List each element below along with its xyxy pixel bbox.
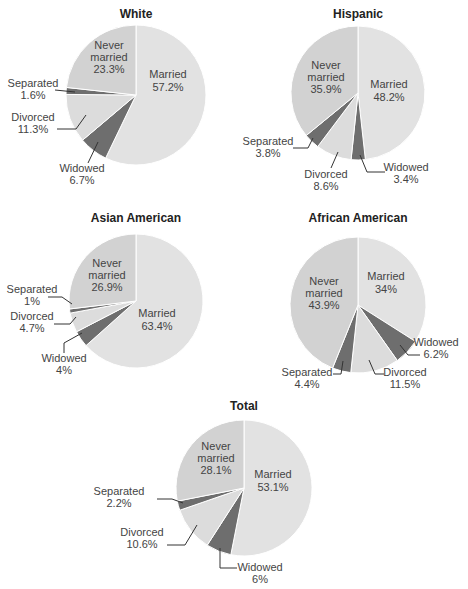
label-married: Married53.1% — [254, 468, 291, 493]
leader-separated — [48, 297, 72, 304]
chart-title-hispanic: Hispanic — [333, 7, 383, 21]
label-widowed: Widowed6.2% — [413, 336, 458, 360]
pie-asian-american: Asian American Married63.4% Nevermarried… — [7, 211, 203, 376]
label-never-married: Nevermarried28.1% — [197, 440, 234, 476]
label-married: Married57.2% — [149, 68, 186, 93]
label-separated: Separated3.8% — [243, 135, 294, 159]
chart-title-white: White — [120, 7, 153, 21]
label-divorced: Divorced8.6% — [304, 168, 347, 192]
chart-title-asian-american: Asian American — [91, 211, 181, 225]
label-separated: Separated2.2% — [94, 485, 145, 509]
label-separated: Separated4.4% — [282, 366, 333, 390]
label-divorced: Divorced10.6% — [120, 526, 163, 550]
pie-white: White Married57.2% Nevermarried23.3% Sep… — [8, 7, 206, 186]
label-widowed: Widowed4% — [41, 352, 86, 376]
label-never-married: Nevermarried23.3% — [90, 39, 127, 75]
label-widowed: Widowed6.7% — [59, 162, 104, 186]
chart-title-african-american: African American — [309, 211, 408, 225]
pie-slices — [176, 420, 312, 556]
pie-african-american: African American Married34% Nevermarried… — [282, 211, 459, 390]
pie-hispanic: Hispanic Married48.2% Nevermarried35.9% … — [243, 7, 429, 192]
label-married: Married63.4% — [138, 307, 175, 332]
label-married: Married48.2% — [370, 78, 407, 103]
label-separated: Separated1% — [7, 283, 58, 307]
label-divorced: Divorced11.5% — [383, 366, 426, 390]
pie-slices — [66, 25, 206, 165]
label-widowed: Widowed6% — [237, 561, 282, 585]
label-widowed: Widowed3.4% — [383, 161, 428, 185]
chart-title-total: Total — [230, 399, 258, 413]
label-never-married: Nevermarried26.9% — [88, 257, 125, 293]
label-divorced: Divorced11.3% — [11, 111, 54, 135]
label-never-married: Nevermarried35.9% — [307, 59, 344, 95]
label-separated: Separated1.6% — [8, 77, 59, 101]
label-never-married: Nevermarried43.9% — [305, 275, 342, 311]
pie-slices — [69, 234, 203, 368]
pie-total: Total Married53.1% Nevermarried28.1% Sep… — [94, 399, 312, 585]
label-divorced: Divorced4.7% — [10, 310, 53, 334]
pie-chart-figure: White Married57.2% Nevermarried23.3% Sep… — [0, 0, 468, 589]
